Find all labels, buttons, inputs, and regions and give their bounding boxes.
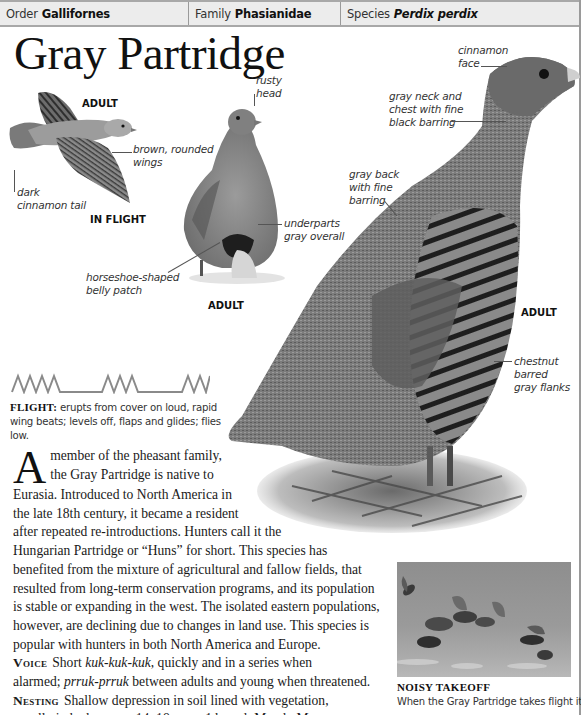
large-adult-tag: ADULT	[521, 307, 557, 318]
flight-description: FLIGHT: erupts from cover on loud, rapid…	[10, 400, 242, 443]
description-line: Eurasia. Introduced to North America in	[13, 486, 403, 505]
description-line: member of the pheasant family,	[13, 447, 403, 466]
description-line: benefited from the mixture of agricultur…	[13, 561, 403, 580]
voice-call-2: prruk-prruk	[64, 674, 129, 689]
callout-chestnut-flanks: chestnut barred gray flanks	[514, 355, 570, 394]
takeoff-photo	[397, 562, 571, 677]
flock-in-flight-image	[397, 562, 571, 677]
callout-dark-cinnamon-tail: dark cinnamon tail	[17, 186, 86, 212]
voice-section: VoiceShort kuk-kuk-kuk, quickly and in a…	[13, 654, 403, 673]
field-guide-page: Order Gallifornes Family Phasianidae Spe…	[0, 0, 581, 715]
nesting-heading: Nesting	[13, 693, 59, 708]
in-flight-tag: IN FLIGHT	[90, 214, 146, 225]
voice-call-1: kuk-kuk-kuk	[85, 655, 151, 670]
voice-section-cont: alarmed; prruk-prruk between adults and …	[13, 673, 403, 692]
callout-gray-neck-chest: gray neck and chest with fine black barr…	[389, 90, 463, 129]
voice-heading: Voice	[13, 655, 47, 670]
order-label: Order	[6, 7, 38, 21]
description-line: the Gray Partridge is native to	[13, 466, 403, 485]
callout-horseshoe-belly-patch: horseshoe-shaped belly patch	[86, 271, 179, 297]
description-line: resulted from long-term conservation pro…	[13, 580, 403, 599]
description-line: after repeated re-introductions. Hunters…	[13, 523, 403, 542]
species-label: Species	[347, 7, 390, 21]
family-value: Phasianidae	[235, 7, 312, 21]
nesting-section: NestingShallow depression in soil lined …	[13, 692, 403, 711]
leader-line	[450, 121, 506, 122]
taxonomy-order: Order Gallifornes	[0, 2, 188, 25]
leader-line	[112, 152, 132, 153]
species-value: Perdix perdix	[394, 7, 478, 21]
flight-pattern-icon	[10, 372, 210, 394]
description-line: Hungarian Partridge or “Huns” for short.…	[13, 542, 403, 561]
order-value: Gallifornes	[42, 7, 110, 21]
photo-caption-title: NOISY TAKEOFF	[397, 681, 490, 693]
species-description: A member of the pheasant family, the Gra…	[13, 447, 403, 715]
description-line: popular with hunters in both North Ameri…	[13, 636, 403, 655]
taxonomy-bar: Order Gallifornes Family Phasianidae Spe…	[0, 0, 579, 27]
callout-gray-back: gray back with fine barring	[349, 168, 399, 207]
description-line: however, are declining due to changes in…	[13, 617, 403, 636]
flight-label: FLIGHT:	[10, 401, 57, 413]
flight-adult-tag: ADULT	[82, 98, 118, 109]
photo-caption-text: When the Gray Partridge takes flight its…	[397, 696, 581, 707]
leader-line	[481, 66, 507, 67]
taxonomy-species: Species Perdix perdix	[340, 2, 579, 25]
nesting-section-cont: usually in hedgerows; 14–18 eggs; 1 broo…	[13, 710, 403, 715]
drop-cap: A	[13, 450, 46, 486]
leader-line	[14, 170, 15, 192]
description-line: the late 18th century, it became a resid…	[13, 505, 403, 524]
leader-line	[494, 361, 512, 362]
description-line: is stable or expanding in the west. The …	[13, 598, 403, 617]
family-label: Family	[195, 7, 231, 21]
taxonomy-family: Family Phasianidae	[188, 2, 340, 25]
